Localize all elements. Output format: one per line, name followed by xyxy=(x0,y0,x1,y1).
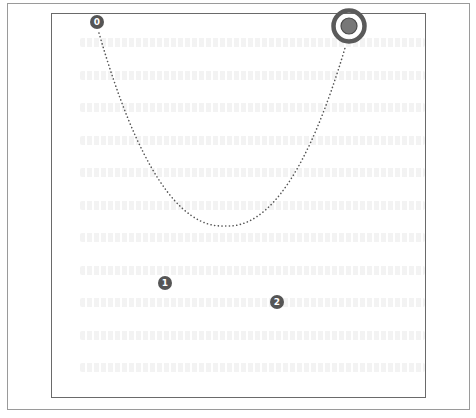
marker-label: 1 xyxy=(162,278,168,288)
marker-2: 2 xyxy=(270,295,284,309)
marker-1: 1 xyxy=(158,276,172,290)
trajectory-diagram: 012 xyxy=(0,0,476,418)
marker-label: 2 xyxy=(274,297,280,307)
marker-0: 0 xyxy=(90,15,104,29)
parabolic-trajectory xyxy=(99,33,345,226)
target-icon xyxy=(334,11,365,42)
marker-label: 0 xyxy=(94,17,100,27)
numbered-markers: 012 xyxy=(90,15,284,309)
